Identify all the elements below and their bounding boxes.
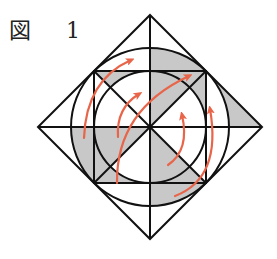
geometry-diagram	[0, 0, 277, 259]
line-work	[38, 15, 262, 239]
